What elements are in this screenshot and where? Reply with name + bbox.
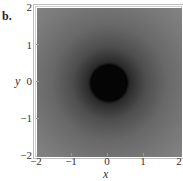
central-disk [91,65,128,102]
heatmap [37,8,182,157]
y-tick-label: 0 [27,76,33,87]
y-tick-label: 1 [27,40,33,51]
x-tick-mark [71,153,72,156]
y-tick-mark [36,118,39,119]
y-tick-mark [36,44,39,45]
y-tick-mark [36,81,39,82]
x-tick-label: −2 [30,156,42,167]
x-tick-label: 2 [176,156,182,167]
x-tick-label: 0 [104,156,110,167]
panel-label: b. [2,9,12,24]
y-tick-label: −1 [20,113,32,124]
x-tick-mark [143,153,144,156]
x-tick-mark [107,153,108,156]
y-axis-label: y [15,74,20,89]
plot-area [35,6,182,157]
y-tick-label: 2 [27,2,33,13]
x-axis-label: x [103,167,108,181]
x-tick-label: −1 [65,156,77,167]
x-tick-label: 1 [140,156,146,167]
